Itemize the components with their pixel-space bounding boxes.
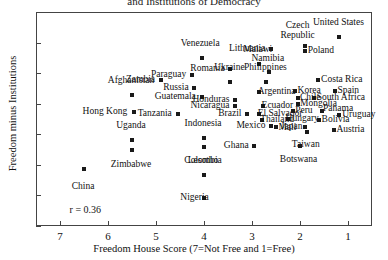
data-point (202, 173, 206, 177)
point-label: China (72, 182, 95, 192)
correlation-annotation: r = 0.36 (70, 204, 101, 215)
x-tick-label: 2 (297, 230, 303, 242)
data-point (233, 98, 237, 102)
data-point (176, 112, 180, 116)
data-point (200, 56, 204, 60)
point-label: Zimbabwe (111, 160, 152, 170)
data-point (317, 118, 321, 122)
x-tick-mark (300, 221, 301, 226)
point-label: Argentina (258, 88, 296, 98)
x-tick-label: 6 (105, 230, 111, 242)
point-label: Hong Kong (83, 107, 128, 117)
x-tick-label: 4 (201, 230, 207, 242)
data-point (296, 102, 300, 106)
point-label: Colombia (184, 155, 221, 165)
point-label: Japan (281, 123, 303, 133)
point-label: Mexico (236, 121, 265, 131)
y-tick-mark (36, 43, 41, 44)
x-tick-mark (348, 221, 349, 226)
point-label: Indonesia (185, 119, 222, 129)
x-tick-label: 7 (57, 230, 63, 242)
point-label: Uganda (116, 121, 146, 131)
point-label: Taiwan (292, 140, 320, 150)
data-point (82, 167, 86, 171)
y-tick-mark (36, 73, 41, 74)
data-point (130, 148, 134, 152)
data-point (245, 112, 249, 116)
point-label: Botswana (280, 155, 317, 165)
data-point (228, 80, 232, 84)
data-point (337, 113, 341, 117)
x-tick-label: 3 (249, 230, 255, 242)
x-tick-mark (156, 221, 157, 226)
data-point (132, 110, 136, 114)
point-label: Ghana (224, 141, 249, 151)
point-label: Brazil (218, 109, 241, 119)
point-label: CzechRepublic (280, 20, 314, 40)
data-point (332, 128, 336, 132)
data-point (264, 80, 268, 84)
data-point (293, 89, 297, 93)
y-tick-mark (36, 195, 41, 196)
data-point (337, 35, 341, 39)
point-label: Nigeria (180, 193, 209, 203)
y-tick-mark (36, 226, 41, 227)
point-label: Costa Rica (321, 75, 362, 85)
point-label: Paraguay (151, 71, 186, 81)
y-axis-label: Freedom minus Institutions (7, 39, 18, 189)
data-point (269, 47, 273, 51)
x-tick-mark (108, 221, 109, 226)
chart-title: and Institutions of Democracy (0, 0, 388, 7)
data-point (296, 96, 300, 100)
y-tick-mark (36, 12, 41, 13)
x-axis-label: Freedom House Score (7=Not Free and 1=Fr… (0, 243, 388, 254)
data-point (303, 44, 307, 48)
data-point (312, 96, 316, 100)
data-point (192, 86, 196, 90)
data-point (202, 136, 206, 140)
data-point (303, 125, 307, 129)
data-point (274, 125, 278, 129)
y-tick-mark (36, 104, 41, 105)
point-label: Tanzania (138, 109, 172, 119)
point-label: Austria (336, 126, 364, 136)
data-point (130, 93, 134, 97)
data-point (269, 124, 273, 128)
point-label: Venezuela (181, 38, 220, 48)
data-point (316, 78, 320, 82)
data-point (291, 109, 295, 113)
data-point (303, 49, 307, 53)
data-point (298, 144, 302, 148)
x-tick-mark (252, 221, 253, 226)
point-label: United States (313, 18, 364, 28)
x-tick-mark (60, 221, 61, 226)
data-point (252, 144, 256, 148)
point-label: Spain (337, 86, 359, 96)
y-tick-mark (36, 134, 41, 135)
point-label: Poland (308, 46, 334, 56)
x-tick-label: 5 (153, 230, 159, 242)
y-tick-mark (36, 165, 41, 166)
data-point (333, 89, 337, 93)
scatter-chart: and Institutions of Democracy -0.6-0.4-0… (0, 0, 388, 260)
x-tick-mark (204, 221, 205, 226)
data-point (202, 145, 206, 149)
data-point (305, 130, 309, 134)
point-label: Philippines (244, 62, 287, 72)
data-point (130, 138, 134, 142)
x-tick-label: 1 (345, 230, 351, 242)
point-label: Uruguay (342, 110, 375, 120)
point-label: Ukraine (214, 63, 245, 73)
